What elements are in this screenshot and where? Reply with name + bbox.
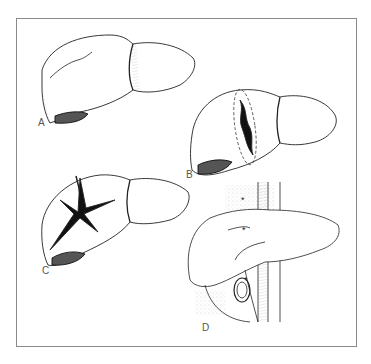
panel-label-b: B: [186, 170, 193, 180]
panel-b-liver: [191, 88, 337, 175]
panel-label-d: D: [202, 323, 209, 333]
panel-d-liver-vessels: * * *: [188, 182, 339, 322]
asterisk-marker-3: *: [244, 275, 248, 285]
asterisk-marker-2: *: [242, 225, 246, 235]
liver-illustration: * * *: [0, 0, 371, 364]
panel-a-liver: [42, 35, 195, 123]
panel-label-a: A: [38, 118, 45, 128]
panel-c-liver: [42, 175, 189, 266]
panel-label-c: C: [42, 266, 49, 276]
asterisk-marker-1: *: [241, 195, 245, 205]
